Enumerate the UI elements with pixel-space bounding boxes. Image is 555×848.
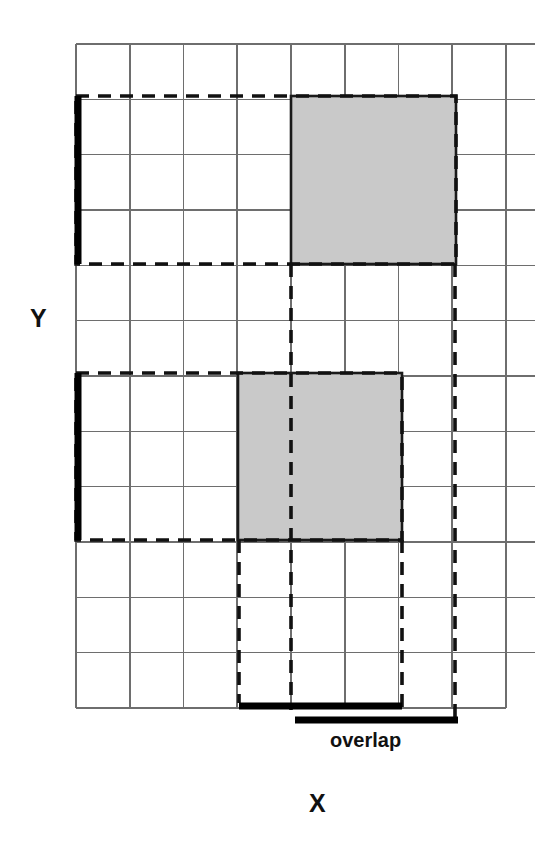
lower-shaded-box (238, 373, 402, 540)
x-axis-label: X (309, 791, 326, 816)
y-axis-label: Y (30, 306, 47, 331)
overlap-diagram-figure: Y X overlap (0, 0, 555, 848)
overlap-annotation-label: overlap (330, 729, 401, 752)
diagram-canvas (0, 0, 555, 848)
upper-shaded-box (291, 96, 456, 264)
